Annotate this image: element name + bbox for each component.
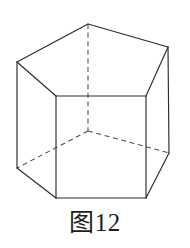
prism-face-front (56, 96, 146, 198)
figure-caption: 图12 (0, 206, 190, 240)
figure-container: 图12 (0, 0, 190, 248)
